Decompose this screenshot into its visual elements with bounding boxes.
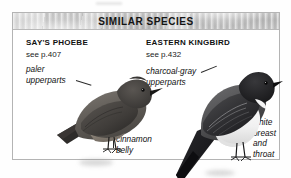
- panel-title: SIMILAR SPECIES: [13, 13, 279, 30]
- eastern-kingbird-illustration: [163, 47, 283, 178]
- phoebe-eye: [141, 88, 144, 91]
- panel-body: SAY'S PHOEBE see p.407 EASTERN KINGBIRD …: [13, 31, 279, 160]
- panel-header-bar: SIMILAR SPECIES: [13, 13, 279, 30]
- says-phoebe-illustration: [51, 49, 161, 164]
- similar-species-panel: SIMILAR SPECIES SAY'S PHOEBE see p.407 E…: [12, 12, 280, 160]
- species-name-says-phoebe: SAY'S PHOEBE: [26, 38, 88, 48]
- kingbird-bill: [273, 81, 283, 88]
- annotation-line-1: paler: [26, 64, 44, 74]
- kingbird-eye: [264, 81, 267, 84]
- page-canvas: SIMILAR SPECIES SAY'S PHOEBE see p.407 E…: [0, 0, 291, 178]
